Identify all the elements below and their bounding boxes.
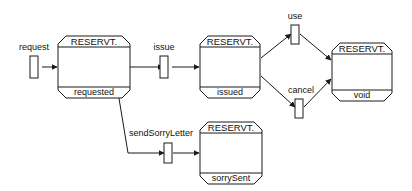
transition-use[interactable]: use xyxy=(288,11,303,44)
transition-sendsorryletter[interactable]: sendSorryLetter xyxy=(129,128,193,163)
transition-bar-use[interactable] xyxy=(291,25,299,44)
edge-issued-to-use xyxy=(261,34,291,58)
state-node-requested[interactable]: RESERVT. requested xyxy=(58,36,130,98)
transition-bar-request[interactable] xyxy=(30,56,38,78)
transition-label-issue: issue xyxy=(153,42,174,52)
transition-label-use: use xyxy=(288,11,303,21)
transition-label-cancel: cancel xyxy=(288,85,314,95)
transition-label-request: request xyxy=(19,42,50,52)
state-name-label-requested: requested xyxy=(74,87,114,97)
diagram-canvas: RESERVT. requested RESERVT. issued RESER… xyxy=(0,0,412,191)
state-transition-diagram: RESERVT. requested RESERVT. issued RESER… xyxy=(0,0,412,191)
transition-label-sendsorryletter: sendSorryLetter xyxy=(129,128,193,138)
state-type-label-sorrysent: RESERVT. xyxy=(208,122,254,133)
edge-use-to-void xyxy=(300,34,331,60)
state-name-label-sorrysent: sorrySent xyxy=(212,173,251,183)
state-name-label-void: void xyxy=(354,90,371,100)
transition-bar-cancel[interactable] xyxy=(295,99,303,118)
transition-cancel[interactable]: cancel xyxy=(288,85,314,118)
state-type-label-issued: RESERVT. xyxy=(207,36,253,47)
transition-issue[interactable]: issue xyxy=(153,42,174,78)
state-type-label-void: RESERVT. xyxy=(339,43,385,54)
state-type-label-requested: RESERVT. xyxy=(71,36,117,47)
state-node-void[interactable]: RESERVT. void xyxy=(332,43,392,101)
state-node-sorrysent[interactable]: RESERVT. sorrySent xyxy=(200,122,262,184)
transition-request[interactable]: request xyxy=(19,42,50,78)
state-name-label-issued: issued xyxy=(217,87,243,97)
transition-bar-issue[interactable] xyxy=(160,56,168,78)
transition-bar-sendsorryletter[interactable] xyxy=(164,143,172,163)
state-node-issued[interactable]: RESERVT. issued xyxy=(200,36,260,98)
